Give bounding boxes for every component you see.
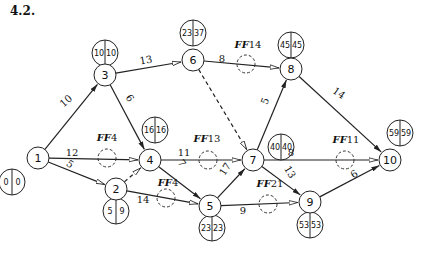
node-number: 9 <box>307 196 314 209</box>
node-number: 6 <box>190 54 197 67</box>
ff-prefix: FF <box>234 39 250 50</box>
ff-value: 4 <box>111 132 117 143</box>
free-float-label: FF13 <box>193 133 221 144</box>
event-node-4: 4 <box>139 149 161 171</box>
event-times-5: 2323 <box>199 215 225 241</box>
node-number: 8 <box>288 63 295 76</box>
ff-value: 4 <box>172 177 178 188</box>
latest-time: 9 <box>119 207 124 216</box>
ff-prefix: FF <box>193 133 209 144</box>
earliest-time: 53 <box>299 221 309 230</box>
event-times-9: 5353 <box>297 212 323 238</box>
duration-label: 5 <box>259 96 272 106</box>
duration-label: 11 <box>178 147 191 158</box>
activity-arrow-1-2 <box>48 162 105 185</box>
free-float-label: FF4 <box>157 177 179 188</box>
duration-label: 7 <box>176 157 189 169</box>
free-float-marker <box>98 149 116 167</box>
node-number: 2 <box>113 183 120 196</box>
ff-value: 21 <box>271 178 284 189</box>
event-node-5: 5 <box>199 195 221 217</box>
event-node-3: 3 <box>94 64 116 86</box>
duration-label: 6 <box>124 92 137 104</box>
earliest-time: 5 <box>107 207 112 216</box>
event-times-3: 1010 <box>92 40 118 66</box>
event-node-10: 10 <box>379 149 401 171</box>
earliest-time: 40 <box>270 143 280 152</box>
duration-label: 17 <box>217 161 233 178</box>
duration-label: 13 <box>282 164 298 181</box>
free-float-label: FF4 <box>96 132 118 143</box>
node-number: 7 <box>250 154 257 167</box>
latest-time: 59 <box>401 129 411 138</box>
duration-label: 14 <box>137 194 150 205</box>
network-diagram: FF4FF13FF4FF14FF21FF11 00591010161623232… <box>0 0 425 253</box>
latest-time: 45 <box>292 41 302 50</box>
latest-time: 10 <box>106 49 116 58</box>
earliest-time: 23 <box>201 224 211 233</box>
event-node-8: 8 <box>280 58 302 80</box>
ff-value: 14 <box>249 39 262 50</box>
ff-prefix: FF <box>96 132 112 143</box>
event-node-6: 6 <box>182 49 204 71</box>
latest-time: 16 <box>156 126 166 135</box>
event-times-6: 2337 <box>180 20 206 46</box>
activity-arrow-1-4 <box>49 158 138 160</box>
ff-prefix: FF <box>332 134 348 145</box>
event-node-1: 1 <box>27 147 49 169</box>
free-float-label: FF14 <box>234 39 262 50</box>
latest-time: 37 <box>194 29 204 38</box>
earliest-time: 23 <box>182 29 192 38</box>
earliest-time: 10 <box>94 49 104 58</box>
latest-time: 53 <box>311 221 321 230</box>
event-times-2: 59 <box>103 198 129 224</box>
event-times-1: 00 <box>0 169 25 195</box>
node-number: 5 <box>207 200 214 213</box>
earliest-time: 0 <box>3 178 8 187</box>
duration-label: 8 <box>219 53 225 64</box>
node-number: 10 <box>383 154 397 167</box>
event-times-4: 1616 <box>142 117 168 143</box>
event-times-8: 4545 <box>278 32 304 58</box>
activity-arrow-1-3 <box>45 84 98 149</box>
ff-prefix: FF <box>256 178 272 189</box>
node-number: 4 <box>147 154 154 167</box>
event-node-2: 2 <box>105 178 127 200</box>
ff-value: 13 <box>208 133 221 144</box>
node-number: 3 <box>102 69 109 82</box>
latest-time: 0 <box>15 178 20 187</box>
event-times-10: 5959 <box>387 120 413 146</box>
duration-label: 9 <box>240 205 246 216</box>
duration-label: 14 <box>331 85 348 101</box>
duration-label: 10 <box>58 93 75 110</box>
duration-label: 6 <box>348 168 360 181</box>
earliest-time: 16 <box>144 126 154 135</box>
duration-label: 12 <box>66 147 79 158</box>
earliest-time: 59 <box>389 129 399 138</box>
ff-prefix: FF <box>157 177 173 188</box>
free-float-label: FF11 <box>332 134 360 145</box>
latest-time: 23 <box>213 224 223 233</box>
event-node-7: 7 <box>242 149 264 171</box>
earliest-time: 45 <box>280 41 290 50</box>
ff-value: 11 <box>347 134 360 145</box>
free-float-label: FF21 <box>256 178 284 189</box>
duration-label: 5 <box>64 158 76 171</box>
duration-label: 8 <box>288 147 294 158</box>
duration-label: 13 <box>139 53 153 66</box>
node-number: 1 <box>35 152 42 165</box>
activity-arrow-6-8 <box>204 61 279 68</box>
event-node-9: 9 <box>299 191 321 213</box>
activity-arrow-2-4 <box>124 168 141 182</box>
